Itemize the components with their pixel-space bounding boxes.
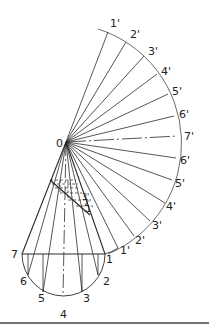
development-arc (98, 29, 182, 254)
arc-label-7: 7' (184, 130, 194, 143)
arc-label-3b: 3' (152, 219, 162, 232)
arc-label-3: 3' (148, 45, 158, 58)
base-label-3: 3 (83, 292, 90, 305)
cut-label-3: 3' (82, 193, 89, 202)
base-label-1: 1 (106, 253, 113, 266)
cone-left-edge (22, 142, 66, 254)
arc-label-1: 1' (110, 17, 120, 30)
base-label-2: 2 (103, 275, 110, 288)
apex-label: 0 (56, 137, 63, 150)
arc-label-1b: 1' (120, 244, 130, 257)
arc-label-4b: 4' (166, 200, 176, 213)
arc-label-6: 6' (179, 108, 189, 121)
arc-label-2b: 2' (135, 234, 145, 247)
cone-development-diagram: 0 1' 2' 3' 4' 5' 6' 7' 6' 5' 4' 3' 2' 1'… (0, 0, 209, 334)
arc-label-4: 4' (161, 65, 171, 78)
arc-label-5b: 5' (175, 177, 185, 190)
base-label-6: 6 (20, 275, 27, 288)
base-label-4: 4 (60, 308, 67, 321)
arc-label-5: 5' (172, 85, 182, 98)
base-label-7: 7 (11, 248, 18, 261)
base-label-5: 5 (38, 292, 45, 305)
arc-label-2: 2' (130, 28, 140, 41)
arc-label-6b: 6' (180, 154, 190, 167)
